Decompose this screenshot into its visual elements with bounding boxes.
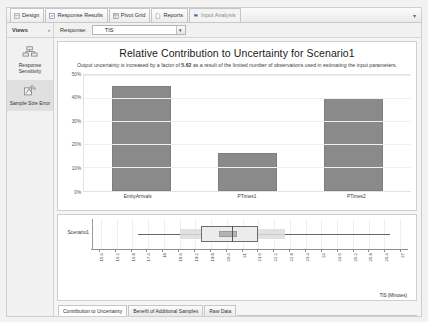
tab-reports-label: Reports — [163, 13, 183, 19]
bar-column — [89, 75, 194, 191]
analysis-content: Relative Contribution to Uncertainty for… — [54, 38, 421, 316]
box-plot-tick-label: 15.6 — [99, 253, 104, 261]
box-plot-tick — [273, 249, 274, 252]
tab-pivot-grid-label: Pivot Grid — [121, 13, 146, 19]
ribbon-tabstrip: Design Response Results Pivot Grid Repor… — [7, 8, 421, 23]
box-plot-tick-label: 24.6 — [337, 253, 342, 261]
box-plot-tick — [337, 249, 338, 252]
ribbon-collapse-icon[interactable]: ▾ — [413, 13, 416, 19]
box-plot-axis-title: TIS (Minutes) — [379, 293, 407, 298]
tab-contribution-to-uncertainty[interactable]: Contribution to Uncertainty — [58, 305, 127, 316]
box-plot-row: Scenario1 — [62, 219, 408, 249]
x-axis-category-label: PTimes1 — [192, 194, 301, 199]
grid-line — [84, 144, 411, 145]
box-plot-median-line — [232, 226, 233, 242]
box-plot-category-label: Scenario1 — [62, 219, 92, 235]
bottom-tabstrip: Contribution to Uncertainty Benefit of A… — [57, 303, 417, 316]
tab-design-label: Design — [22, 13, 39, 19]
tab-raw-data-label: Raw Data — [209, 308, 231, 314]
chart-title: Relative Contribution to Uncertainty for… — [63, 47, 411, 59]
tab-pivot-grid[interactable]: Pivot Grid — [109, 8, 151, 22]
response-label: Response: — [60, 27, 87, 33]
tab-contribution-to-uncertainty-label: Contribution to Uncertainty — [63, 308, 122, 314]
box-plot-tick-label: 22.8 — [289, 253, 294, 261]
bar-chart-y-axis: 0%10%20%30%40%50% — [63, 74, 83, 192]
bar[interactable] — [112, 86, 171, 190]
grid-line — [84, 121, 411, 122]
views-label: Views — [12, 27, 28, 33]
response-sensitivity-icon — [22, 46, 38, 60]
box-plot-ticks: 15.616.216.817.41818.619.219.820.42121.6… — [91, 249, 408, 279]
response-toolbar: Views ‹ Response: TIS ▾ — [7, 23, 421, 38]
box-plot-mean-marker — [219, 231, 237, 237]
box-plot-tick — [194, 249, 195, 252]
bar-series — [84, 75, 411, 191]
box-plot-tick-label: 22.2 — [273, 253, 278, 261]
box-plot-tick — [321, 249, 322, 252]
box-plot-tick-label: 21 — [242, 253, 247, 258]
input-analysis-icon — [193, 13, 199, 19]
box-plot-tick — [115, 249, 116, 252]
box-plot-tick — [257, 249, 258, 252]
box-plot-tick — [353, 249, 354, 252]
box-plot-tick-label: 20.4 — [226, 253, 231, 261]
y-axis-tick: 40% — [72, 95, 81, 100]
tab-benefit-of-additional-samples[interactable]: Benefit of Additional Samples — [128, 305, 203, 316]
box-plot-tick-label: 25.2 — [353, 253, 358, 261]
design-icon — [14, 13, 20, 19]
pin-icon[interactable]: ‹ — [48, 27, 50, 33]
box-plot-grid-line — [400, 219, 401, 249]
response-value: TIS — [93, 27, 114, 33]
box-plot-grid-line — [101, 219, 102, 249]
bar-chart: 0%10%20%30%40%50% — [63, 74, 411, 192]
tab-raw-data[interactable]: Raw Data — [204, 305, 236, 316]
x-axis-category-label: PTimes2 — [302, 194, 411, 199]
chevron-down-icon[interactable]: ▾ — [176, 26, 185, 34]
grid-line — [84, 167, 411, 168]
box-plot-tick — [146, 249, 147, 252]
sidebar-item-sample-size-error[interactable]: Sample Size Error — [7, 80, 53, 111]
box-plot-tick — [162, 249, 163, 252]
chart-subtitle: Output uncertainty is increased by a fac… — [75, 62, 399, 70]
sidebar-item-response-sensitivity[interactable]: Response Sensitivity — [7, 42, 53, 80]
box-plot-tick — [305, 249, 306, 252]
response-select[interactable]: TIS ▾ — [92, 25, 186, 35]
views-sidebar: Response Sensitivity Sample Size Error — [7, 38, 54, 316]
box-plot-tick — [384, 249, 385, 252]
y-axis-tick: 30% — [72, 118, 81, 123]
tab-benefit-of-additional-samples-label: Benefit of Additional Samples — [133, 308, 198, 314]
tab-response-results-label: Response Results — [57, 13, 102, 19]
box-plot-tick-label: 17.4 — [146, 253, 151, 261]
box-plot-tick-label: 25.8 — [368, 253, 373, 261]
sample-size-error-icon — [22, 84, 38, 98]
tab-reports[interactable]: Reports — [151, 8, 188, 22]
application-window: Design Response Results Pivot Grid Repor… — [0, 0, 428, 322]
workspace: Response Sensitivity Sample Size Error R… — [7, 38, 421, 316]
y-axis-tick: 50% — [72, 71, 81, 76]
bar[interactable] — [218, 153, 277, 190]
box-plot-tick-label: 23.4 — [305, 253, 310, 261]
boxplot-panel: Scenario1 15.616.216.817.41818.619.219.8… — [57, 214, 417, 301]
pivot-grid-icon — [113, 13, 119, 19]
tab-input-analysis-label: Input Analysis — [201, 13, 236, 19]
chart-subtitle-post: as a result of the limited number of obs… — [191, 62, 397, 68]
reports-icon — [155, 13, 161, 19]
box-plot-tick-label: 24 — [321, 253, 326, 258]
y-axis-tick: 10% — [72, 165, 81, 170]
sidebar-item-sample-size-error-label: Sample Size Error — [10, 100, 51, 106]
box-plot-tick — [368, 249, 369, 252]
box-plot-tick-label: 16.8 — [131, 253, 136, 261]
tab-input-analysis[interactable]: Input Analysis — [189, 8, 241, 22]
box-plot-tick — [210, 249, 211, 252]
box-plot-tick — [400, 249, 401, 252]
tab-design[interactable]: Design — [10, 8, 44, 22]
main-window: Design Response Results Pivot Grid Repor… — [6, 7, 422, 317]
grid-line — [84, 75, 411, 76]
box-plot-tick — [226, 249, 227, 252]
bar-column — [301, 75, 406, 191]
tab-response-results[interactable]: Response Results — [45, 8, 107, 22]
tabstrip-filler — [237, 305, 417, 316]
box-plot: Scenario1 15.616.216.817.41818.619.219.8… — [58, 215, 416, 300]
grid-line — [84, 98, 411, 99]
box-plot-tick — [242, 249, 243, 252]
